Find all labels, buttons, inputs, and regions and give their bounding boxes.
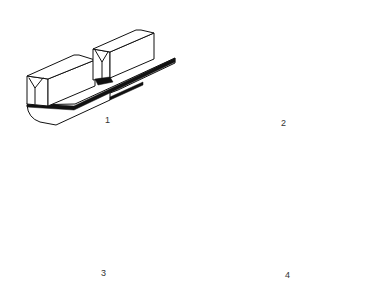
- figure-1: [27, 30, 175, 125]
- figure-2-label: 2: [281, 118, 286, 128]
- figure-4-label: 4: [285, 270, 290, 280]
- figure-1-label: 1: [105, 115, 110, 125]
- diagram-canvas: [0, 0, 380, 305]
- figure-3-label: 3: [101, 268, 106, 278]
